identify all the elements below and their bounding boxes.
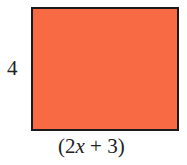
width-label-rest: + 3) <box>85 134 125 158</box>
width-label: (2x + 3) <box>58 134 125 159</box>
rectangle <box>31 7 179 131</box>
height-label: 4 <box>7 56 18 81</box>
width-label-variable: x <box>76 134 85 158</box>
width-label-open: (2 <box>58 134 76 158</box>
